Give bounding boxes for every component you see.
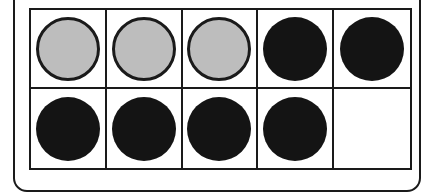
black-counter-icon: [263, 97, 327, 161]
ten-frame-cell: [183, 10, 259, 89]
black-counter-icon: [112, 97, 176, 161]
ten-frame-cell: [258, 89, 334, 168]
ten-frame-cell: [258, 10, 334, 89]
gray-counter-icon: [187, 17, 251, 81]
ten-frame-cell: [334, 89, 410, 168]
ten-frame-cell: [183, 89, 259, 168]
ten-frame-cell: [107, 10, 183, 89]
ten-frame-cell: [31, 89, 107, 168]
ten-frame-grid: [29, 8, 412, 170]
black-counter-icon: [187, 97, 251, 161]
gray-counter-icon: [36, 17, 100, 81]
black-counter-icon: [36, 97, 100, 161]
gray-counter-icon: [112, 17, 176, 81]
ten-frame-cell: [31, 10, 107, 89]
black-counter-icon: [340, 17, 404, 81]
black-counter-icon: [263, 17, 327, 81]
ten-frame-cell: [107, 89, 183, 168]
ten-frame-cell: [334, 10, 410, 89]
